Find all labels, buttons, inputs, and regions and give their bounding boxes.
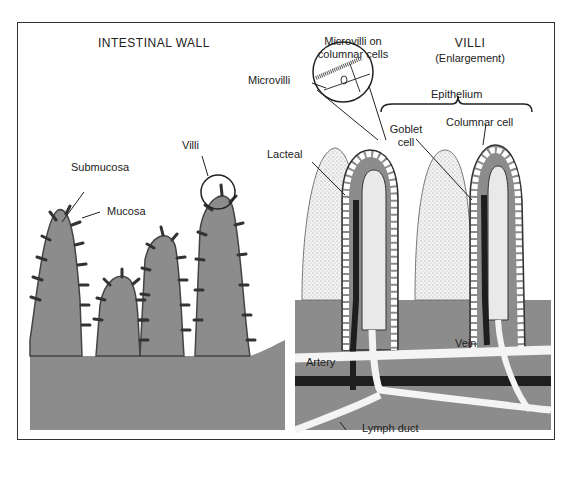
intestinal-wall-illustration [30, 156, 285, 430]
intestinal-wall-title: INTESTINAL WALL [98, 36, 210, 50]
label-line-2: columnar cells [303, 48, 403, 61]
microvilli-label: Microvilli [248, 74, 290, 87]
villi-label: Villi [182, 139, 199, 152]
columnar-cell-label: Columnar cell [446, 116, 513, 129]
mucosa-label: Mucosa [107, 205, 146, 218]
label-line-1: Goblet [384, 123, 428, 136]
lymph-duct-label: Lymph duct [362, 422, 418, 435]
villi-title: VILLI [420, 36, 520, 50]
epithelium-label: Epithelium [431, 88, 482, 101]
label-line-1: Microvilli on [303, 35, 403, 48]
goblet-cell-label: Goblet cell [384, 123, 428, 149]
artery-label: Artery [306, 356, 335, 369]
lacteal-label: Lacteal [267, 148, 302, 161]
label-line-2: cell [384, 136, 428, 149]
vein-label: Vein [455, 337, 476, 350]
diagram-canvas [0, 0, 571, 481]
microvilli-on-columnar-cells-label: Microvilli on columnar cells [303, 35, 403, 61]
villi-enlargement-illustration [295, 42, 551, 430]
villi-subtitle: (Enlargement) [420, 52, 520, 65]
submucosa-label: Submucosa [71, 161, 129, 174]
